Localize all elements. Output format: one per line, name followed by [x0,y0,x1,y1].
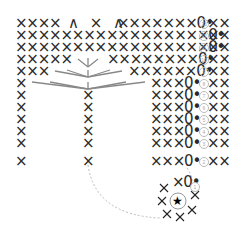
row-2-center: × [82,155,93,167]
row-3-left: × [15,137,26,149]
row-2-left: × [15,155,26,167]
row-3-after: ×× [207,137,230,149]
row-2-right: ×××0• [150,155,200,167]
star-icon: ★ [172,195,183,207]
dashed-path [88,165,160,218]
crochet-chart: ×××× ∧ × ∧ ×××××××0• 13 ×× ×××××××××××××… [0,0,243,238]
row-2-after: ×× [207,155,230,167]
row-3-center: × [82,137,93,149]
row-number-1: 1 [190,182,200,192]
row-3-right: ×××0• [150,137,200,149]
